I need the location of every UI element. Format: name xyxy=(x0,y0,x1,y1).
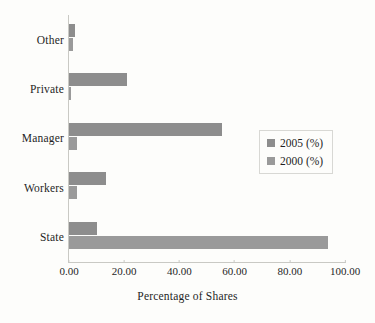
x-tick-label: 40.00 xyxy=(167,263,192,277)
x-tick-label: 100.00 xyxy=(330,263,360,277)
bar-private-2005 xyxy=(69,73,127,86)
tick-mark xyxy=(69,260,70,263)
category-label-state: State xyxy=(40,231,64,243)
chart-legend: 2005 (%)2000 (%) xyxy=(259,130,333,174)
x-tick-label: 80.00 xyxy=(277,263,302,277)
bar-state-2000 xyxy=(69,236,328,249)
legend-label: 2000 (%) xyxy=(280,155,323,167)
tick-mark xyxy=(345,260,346,263)
bar-workers-2005 xyxy=(69,172,106,185)
legend-item: 2000 (%) xyxy=(267,155,323,167)
category-row: State xyxy=(0,213,375,262)
bar-group xyxy=(69,213,345,262)
bar-manager-2005 xyxy=(69,123,222,136)
bar-workers-2000 xyxy=(69,186,77,199)
bar-other-2000 xyxy=(69,38,73,51)
x-axis-title: Percentage of Shares xyxy=(0,290,375,302)
tick-text: 100.00 xyxy=(330,265,360,277)
tick-text: 20.00 xyxy=(112,265,137,277)
x-tick-label: 0.00 xyxy=(59,263,78,277)
bar-manager-2000 xyxy=(69,137,77,150)
category-label-manager: Manager xyxy=(22,132,64,144)
category-label-workers: Workers xyxy=(24,182,64,194)
bar-other-2005 xyxy=(69,24,75,37)
tick-text: 80.00 xyxy=(277,265,302,277)
category-label-private: Private xyxy=(30,83,64,95)
bar-state-2005 xyxy=(69,222,97,235)
tick-text: 0.00 xyxy=(59,265,78,277)
tick-mark xyxy=(289,260,290,263)
x-axis-ticks: 0.0020.0040.0060.0080.00100.00 xyxy=(0,263,375,283)
category-row: Other xyxy=(0,15,375,64)
legend-swatch-icon xyxy=(267,139,275,147)
category-label-other: Other xyxy=(37,34,64,46)
tick-mark xyxy=(179,260,180,263)
tick-mark xyxy=(124,260,125,263)
tick-text: 40.00 xyxy=(167,265,192,277)
bar-group xyxy=(69,64,345,113)
tick-text: 60.00 xyxy=(222,265,247,277)
category-row: Private xyxy=(0,64,375,113)
legend-item: 2005 (%) xyxy=(267,137,323,149)
bar-group xyxy=(69,15,345,64)
legend-swatch-icon xyxy=(267,157,275,165)
x-tick-label: 60.00 xyxy=(222,263,247,277)
legend-label: 2005 (%) xyxy=(280,137,323,149)
bar-private-2000 xyxy=(69,87,71,100)
bar-chart: OtherPrivateManagerWorkersState 0.0020.0… xyxy=(0,0,375,323)
tick-mark xyxy=(234,260,235,263)
x-tick-label: 20.00 xyxy=(112,263,137,277)
